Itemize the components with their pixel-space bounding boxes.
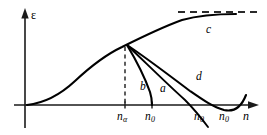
tick-label-n-zero-b: n0: [145, 111, 155, 124]
tick-label-n-alpha-base: n: [117, 110, 123, 122]
tick-label-n-alpha: nα: [117, 111, 127, 124]
x-axis-label: n: [243, 110, 249, 122]
tick-label-n-alpha-sub: α: [123, 115, 127, 124]
branch-label-d: d: [196, 71, 202, 83]
branch-label-a: a: [160, 83, 166, 95]
branch-label-c: c: [206, 24, 211, 36]
tick-label-n-zero-d: n0: [219, 111, 229, 124]
tick-label-n-zero-a: n0: [194, 111, 204, 124]
branch-label-b: b: [140, 81, 146, 93]
y-axis-label: ε: [31, 9, 36, 21]
x-axis-arrowhead: [248, 101, 259, 109]
tick-label-n-zero-d-sub: 0: [225, 115, 229, 124]
main-curve-branch-c: [27, 14, 236, 105]
tick-label-n-zero-b-base: n: [145, 110, 151, 122]
tick-label-n-zero-a-base: n: [194, 110, 200, 122]
tick-label-n-zero-d-base: n: [219, 110, 225, 122]
figure-container: ε n nα n0 n0 n0 b a d c: [0, 0, 267, 135]
tick-label-n-zero-b-sub: 0: [151, 115, 155, 124]
y-axis-arrowhead: [21, 8, 28, 19]
tick-label-n-zero-a-sub: 0: [200, 115, 204, 124]
